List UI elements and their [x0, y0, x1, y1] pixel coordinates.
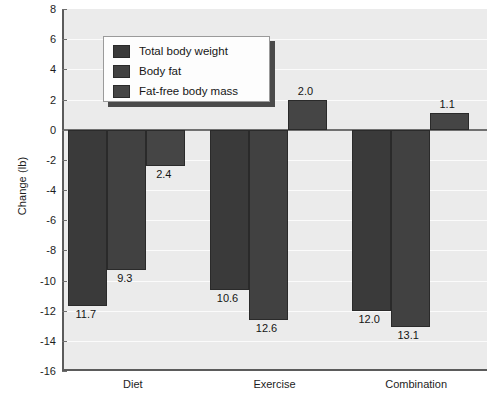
- y-axis-tick-mark: [62, 371, 67, 372]
- legend-item-fat-free-body-mass: Fat-free body mass: [113, 82, 238, 100]
- bar: [352, 130, 391, 311]
- y-axis-tick-mark: [62, 220, 67, 221]
- y-axis-tick-label: -14: [28, 336, 56, 347]
- bar: [288, 100, 327, 130]
- y-axis-tick-label: 6: [28, 34, 56, 45]
- y-axis-tick-label: -10: [28, 276, 56, 287]
- bar-value-label: 1.1: [415, 99, 480, 110]
- y-axis-tick-label: 4: [28, 64, 56, 75]
- bar-value-label: 2.0: [273, 86, 338, 97]
- y-axis-tick-mark: [62, 311, 67, 312]
- bar-value-label: 13.1: [376, 330, 441, 341]
- y-axis-tick-mark: [62, 250, 67, 251]
- legend-swatch-icon-fat-free-body-mass: [113, 85, 130, 98]
- y-axis-tick-mark: [62, 281, 67, 282]
- y-axis-tick-label: -12: [28, 306, 56, 317]
- bar-value-label: 9.3: [92, 273, 157, 284]
- y-axis-tick-mark: [62, 39, 67, 40]
- legend-label-total-body-weight: Total body weight: [139, 45, 228, 57]
- legend-label-body-fat: Body fat: [139, 65, 181, 77]
- y-axis-tick-mark: [62, 100, 67, 101]
- y-axis-tick-label: 8: [28, 4, 56, 15]
- x-axis-category-label: Exercise: [204, 378, 346, 390]
- y-axis-tick-label: -8: [28, 245, 56, 256]
- legend-swatch-icon-body-fat: [113, 65, 130, 78]
- x-axis-category-label: Diet: [62, 378, 204, 390]
- y-axis-tick-label: -4: [28, 185, 56, 196]
- legend-item-total-body-weight: Total body weight: [113, 42, 228, 60]
- y-axis-tick-mark: [62, 130, 67, 131]
- y-axis-tick-label: 0: [28, 125, 56, 136]
- y-axis-tick-mark: [62, 341, 67, 342]
- y-axis-tick-mark: [62, 190, 67, 191]
- y-axis-tick-labels: 86420-2-4-6-8-10-12-14-16: [26, 0, 56, 404]
- y-axis-tick-label: -6: [28, 215, 56, 226]
- x-axis-category-label: Combination: [345, 378, 487, 390]
- y-axis-tick-label: 2: [28, 95, 56, 106]
- bar-value-label: 10.6: [195, 293, 260, 304]
- y-axis-tick-mark: [62, 9, 67, 10]
- bar: [146, 130, 185, 166]
- bar: [249, 130, 288, 320]
- bar-value-label: 2.4: [131, 169, 196, 180]
- bar: [107, 130, 146, 270]
- y-axis-tick-mark: [62, 69, 67, 70]
- legend-swatch-icon-total-body-weight: [113, 45, 130, 58]
- bar-chart: Change (lb) 86420-2-4-6-8-10-12-14-16 11…: [0, 0, 497, 404]
- y-axis-tick-label: -16: [28, 366, 56, 377]
- bar-value-label: 12.0: [337, 314, 402, 325]
- y-axis-tick-mark: [62, 160, 67, 161]
- bar-value-label: 12.6: [234, 323, 299, 334]
- legend-item-body-fat: Body fat: [113, 62, 181, 80]
- bar: [430, 113, 469, 130]
- y-axis-tick-label: -2: [28, 155, 56, 166]
- legend: Total body weight Body fat Fat-free body…: [103, 36, 270, 102]
- bar: [391, 130, 430, 328]
- bar: [210, 130, 249, 290]
- legend-label-fat-free-body-mass: Fat-free body mass: [139, 85, 238, 97]
